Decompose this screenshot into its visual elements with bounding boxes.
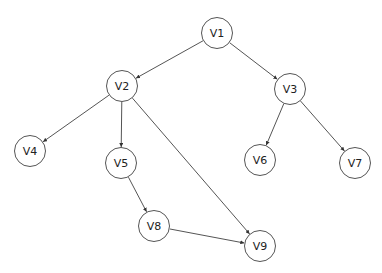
- edge-v2-v4: [43, 95, 109, 142]
- node-label: V5: [114, 157, 129, 170]
- node-label: V2: [115, 80, 130, 93]
- edge-v8-v9: [170, 229, 245, 243]
- edge-v1-v2: [136, 41, 203, 78]
- edge-v5-v8: [128, 177, 146, 212]
- edge-layer: [0, 0, 382, 273]
- node-v6: V6: [244, 144, 276, 176]
- node-v1: V1: [201, 17, 233, 49]
- edge-v1-v3: [230, 43, 278, 80]
- node-v9: V9: [244, 230, 276, 262]
- node-v8: V8: [138, 210, 170, 242]
- node-label: V1: [210, 27, 225, 40]
- node-v7: V7: [339, 147, 371, 179]
- node-label: V7: [348, 157, 363, 170]
- node-label: V6: [253, 154, 268, 167]
- node-v5: V5: [105, 147, 137, 179]
- node-label: V9: [253, 240, 268, 253]
- node-v4: V4: [14, 135, 46, 167]
- node-label: V3: [283, 83, 298, 96]
- node-label: V8: [147, 220, 162, 233]
- edge-v2-v5: [121, 102, 122, 147]
- node-v3: V3: [274, 73, 306, 105]
- node-v2: V2: [106, 70, 138, 102]
- edge-v3-v7: [301, 101, 345, 151]
- node-label: V4: [23, 145, 38, 158]
- edge-v3-v6: [266, 104, 284, 146]
- graph-canvas: V1V2V3V4V5V6V7V8V9: [0, 0, 382, 273]
